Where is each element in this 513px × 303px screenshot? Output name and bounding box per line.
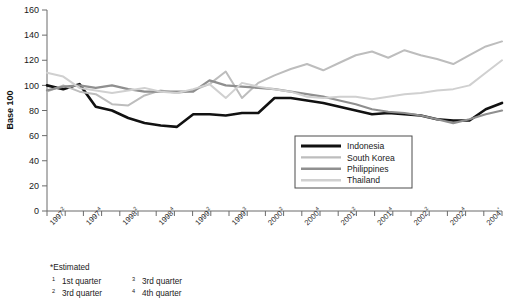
series-line-philippines [47,80,502,123]
footnote-marker: 3 [132,276,135,282]
footnote-text: 3rd quarter [62,289,102,298]
svg-text:2000: 2000 [303,209,321,227]
chart-footnotes: *Estimated11st quarter33rd quarter23rd q… [50,263,182,298]
footnote-marker: 4 [132,288,135,294]
x-tick-label: 20012 [338,205,360,227]
series-line-thailand [47,60,502,99]
y-tick-label: 60 [29,131,39,141]
legend-label-philippines: Philippines [347,164,389,174]
x-tick-label: 19982 [119,205,141,227]
svg-text:2002: 2002 [448,209,466,227]
y-tick-label: 40 [29,156,39,166]
x-tick-label: 20004 [301,205,323,227]
y-tick-label: 80 [29,106,39,116]
x-tick-label: 19974 [83,205,105,227]
svg-text:2000: 2000 [266,209,284,227]
x-tick-label: 20024 [447,205,469,227]
svg-text:2001: 2001 [339,209,357,227]
y-tick-label: 160 [24,5,39,15]
y-tick-label: 20 [29,181,39,191]
x-tick-label: 20014 [374,205,396,227]
x-tick-label: 19984 [156,205,178,227]
svg-text:1999: 1999 [230,209,248,227]
footnote-text: 3rd quarter [142,277,182,286]
y-tick-label: 100 [24,81,39,91]
x-tick-label: 19992 [192,205,214,227]
x-tick-label: 20002 [265,205,287,227]
legend-label-indonesia: Indonesia [347,141,384,151]
exchange-rate-index-line-chart: 020406080100120140160 199721997419982199… [0,0,513,303]
svg-text:1998: 1998 [157,209,175,227]
x-tick-label: 19993 [229,205,251,227]
x-tick-label: 20022 [411,205,433,227]
svg-text:1997: 1997 [84,209,102,227]
series-line-south-korea [47,41,502,105]
svg-text:1997: 1997 [48,209,66,227]
svg-text:1998: 1998 [121,209,139,227]
y-tick-label: 140 [24,30,39,40]
svg-text:2004: 2004 [485,209,503,227]
y-axis-title: Base 100 [5,90,15,129]
legend-label-thailand: Thailand [347,175,380,185]
footnote-marker: 1 [52,276,55,282]
y-tick-label: 0 [34,206,39,216]
footnote-text: 4th quarter [142,289,182,298]
footnote-text: 1st quarter [62,277,101,286]
x-tick-label: 2004* [483,206,504,227]
footnote-marker: 2 [52,288,55,294]
svg-text:1999: 1999 [193,209,211,227]
y-tick-label: 120 [24,55,39,65]
x-tick-label: 19972 [47,205,69,227]
footnote-estimated: *Estimated [50,263,90,272]
y-axis-tick-labels: 020406080100120140160 [24,5,39,216]
series-lines [47,41,502,126]
svg-text:2002: 2002 [412,209,430,227]
x-axis-tick-labels: 1997219974199821998419992199932000220004… [47,205,505,227]
y-axis-ticks [42,10,47,211]
legend-label-south-korea: South Korea [347,153,395,163]
svg-text:2001: 2001 [375,209,393,227]
chart-legend: IndonesiaSouth KoreaPhilippinesThailand [295,136,412,188]
